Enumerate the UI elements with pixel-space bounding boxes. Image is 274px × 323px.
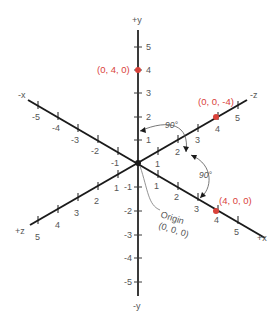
- point-4-0-0: [213, 208, 219, 214]
- x-neg-label: -x: [18, 90, 26, 100]
- svg-text:-2: -2: [91, 146, 99, 156]
- svg-text:2: 2: [175, 147, 180, 157]
- svg-text:-5: -5: [32, 112, 40, 122]
- svg-text:-3: -3: [124, 230, 132, 240]
- svg-text:3: 3: [74, 208, 79, 218]
- point-0-0-neg4: [213, 114, 219, 120]
- svg-text:4: 4: [215, 124, 220, 134]
- point-0-4-0: [135, 67, 141, 73]
- svg-text:-1: -1: [124, 182, 132, 192]
- svg-text:2: 2: [174, 192, 179, 202]
- svg-text:1: 1: [114, 183, 119, 193]
- svg-text:5: 5: [234, 227, 239, 237]
- z-pos-label: +z: [15, 226, 25, 236]
- svg-text:4: 4: [146, 65, 151, 75]
- y-neg-label: -y: [133, 301, 141, 311]
- arc-arrowhead: [140, 127, 146, 133]
- svg-text:1: 1: [154, 181, 159, 191]
- z-pos-tick-labels: 1 2 3 4 5: [35, 183, 119, 242]
- svg-text:1: 1: [155, 159, 160, 169]
- svg-text:4: 4: [214, 215, 219, 225]
- svg-text:5: 5: [235, 113, 240, 123]
- svg-text:-4: -4: [52, 123, 60, 133]
- y-pos-label: +y: [132, 15, 142, 25]
- svg-text:1: 1: [146, 135, 151, 145]
- svg-text:2: 2: [146, 112, 151, 122]
- svg-text:-2: -2: [124, 206, 132, 216]
- svg-text:-5: -5: [124, 277, 132, 287]
- x-pos-label: +x: [257, 233, 267, 243]
- svg-text:-4: -4: [124, 253, 132, 263]
- svg-text:3: 3: [195, 135, 200, 145]
- coordinate-diagram: +y -y +x -x +z -z 5 4 3 2 1 -1 -2 -3 -4 …: [0, 0, 274, 323]
- point-label-0-4-0: (0, 4, 0): [97, 64, 130, 75]
- point-label-4-0-0: (4, 0, 0): [219, 195, 252, 206]
- arc-arrowhead: [183, 146, 189, 152]
- svg-text:5: 5: [146, 42, 151, 52]
- svg-text:3: 3: [194, 204, 199, 214]
- svg-text:5: 5: [35, 232, 40, 242]
- z-neg-label: -z: [250, 90, 258, 100]
- x-neg-tick-labels: -1 -2 -3 -4 -5: [32, 112, 119, 168]
- angle-label-1: 90°: [165, 120, 178, 130]
- origin-point: [135, 160, 141, 166]
- svg-text:-1: -1: [111, 158, 119, 168]
- point-label-0-0-neg4: (0, 0, -4): [198, 96, 234, 107]
- svg-text:-3: -3: [71, 135, 79, 145]
- svg-text:3: 3: [146, 88, 151, 98]
- angle-label-2: 90°: [199, 170, 212, 180]
- svg-text:2: 2: [94, 196, 99, 206]
- svg-text:4: 4: [55, 220, 60, 230]
